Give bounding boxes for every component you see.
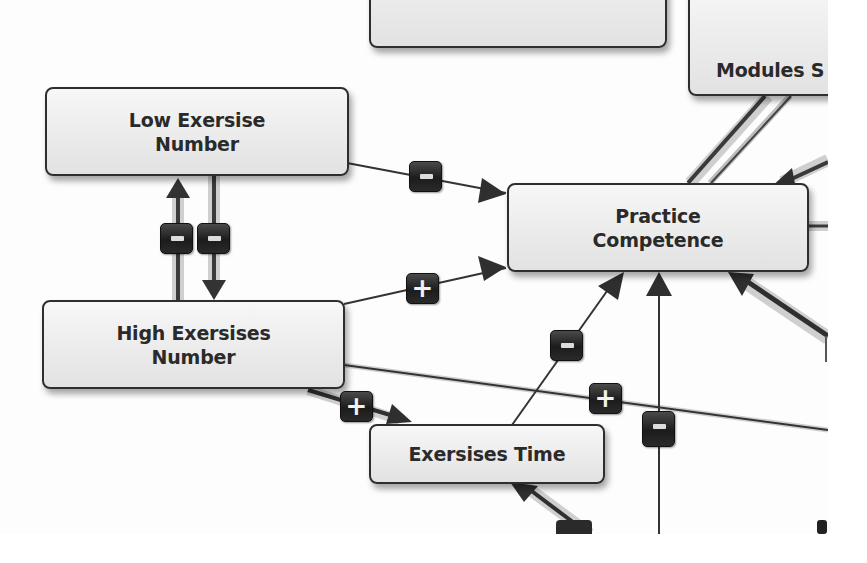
badge-minus-high-to-low[interactable] bbox=[197, 223, 230, 254]
diagram-canvas: Modules S Low Exersise Number Practice C… bbox=[0, 0, 828, 534]
badge-minus-low-to-high[interactable] bbox=[160, 223, 193, 254]
node-high-exersises-number[interactable]: High Exersises Number bbox=[42, 300, 345, 389]
node-low-exersise-number[interactable]: Low Exersise Number bbox=[45, 87, 349, 176]
badge-minus-bottom-practice[interactable] bbox=[642, 411, 675, 447]
partial-badge bbox=[556, 520, 592, 534]
edge-modules-practice bbox=[688, 96, 791, 183]
badge-plus-high-right[interactable]: + bbox=[589, 383, 622, 414]
node-modules[interactable]: Modules S bbox=[688, 0, 828, 96]
node-exersises-time[interactable]: Exersises Time bbox=[369, 424, 605, 484]
node-top-box[interactable] bbox=[369, 0, 667, 48]
badge-plus-high-time[interactable]: + bbox=[340, 391, 373, 422]
node-practice-competence[interactable]: Practice Competence bbox=[507, 183, 809, 272]
badge-minus-time-practice[interactable] bbox=[550, 330, 583, 361]
badge-minus-low-practice[interactable] bbox=[409, 161, 442, 192]
badge-plus-high-practice[interactable]: + bbox=[406, 273, 439, 304]
